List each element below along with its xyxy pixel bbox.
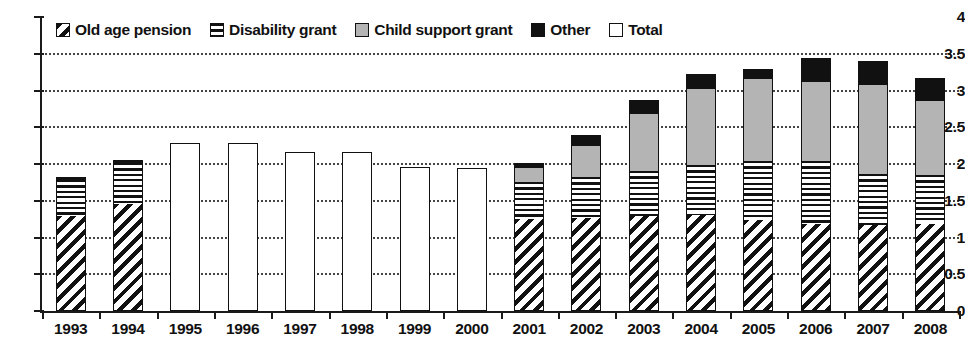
- x-axis-tick: [730, 311, 732, 319]
- bar-segment-child-support-grant: [858, 85, 888, 174]
- bar-1997: [285, 152, 315, 311]
- x-axis-tick: [672, 311, 674, 319]
- x-axis-label: 1997: [271, 321, 328, 337]
- bar-segment-old-age-pension: [686, 215, 716, 311]
- x-axis-tick: [959, 311, 961, 319]
- bar-segment-old-age-pension: [629, 216, 659, 311]
- x-axis-label: 1994: [99, 321, 156, 337]
- x-axis-tick: [329, 311, 331, 319]
- bar-segment-other: [113, 160, 143, 162]
- bar-1995: [170, 143, 200, 311]
- bar-segment-other: [629, 100, 659, 114]
- bar-segment-other: [743, 69, 773, 79]
- x-axis-tick: [844, 311, 846, 319]
- bar-2007: [858, 61, 888, 311]
- x-axis-label: 2005: [730, 321, 787, 337]
- plot-area: [0, 0, 965, 342]
- x-axis-label: 1996: [214, 321, 271, 337]
- bar-segment-total: [170, 143, 200, 311]
- bar-segment-other: [801, 58, 831, 82]
- x-axis-label: 1995: [157, 321, 214, 337]
- x-axis-tick: [157, 311, 159, 319]
- bar-2002: [571, 135, 601, 311]
- y-axis-label: 0.5: [931, 266, 965, 282]
- bar-segment-old-age-pension: [56, 216, 86, 311]
- bar-segment-child-support-grant: [743, 79, 773, 161]
- bar-segment-other: [686, 74, 716, 89]
- bar-segment-child-support-grant: [514, 168, 544, 183]
- bar-segment-other: [571, 135, 601, 145]
- bar-segment-old-age-pension: [801, 224, 831, 311]
- bar-2001: [514, 163, 544, 311]
- x-axis-line: [40, 311, 959, 313]
- x-axis-tick: [615, 311, 617, 319]
- x-axis-label: 2006: [787, 321, 844, 337]
- bar-segment-child-support-grant: [686, 89, 716, 165]
- x-axis-label: 2004: [672, 321, 729, 337]
- y-axis-label: 3: [931, 83, 965, 99]
- bar-segment-disability-grant: [514, 182, 544, 219]
- bar-segment-disability-grant: [801, 161, 831, 224]
- x-axis-label: 2001: [501, 321, 558, 337]
- bar-2004: [686, 74, 716, 311]
- bar-1994: [113, 160, 143, 311]
- x-axis-tick: [214, 311, 216, 319]
- bar-2006: [801, 58, 831, 311]
- y-axis-tick: [34, 200, 44, 202]
- bar-segment-old-age-pension: [743, 220, 773, 311]
- x-axis-label: 2008: [902, 321, 959, 337]
- y-axis-label: 4: [931, 9, 965, 25]
- x-axis-tick: [902, 311, 904, 319]
- bar-segment-disability-grant: [686, 165, 716, 215]
- bar-segment-disability-grant: [571, 177, 601, 217]
- bar-segment-other: [514, 163, 544, 168]
- x-axis-label: 2000: [443, 321, 500, 337]
- x-axis-label: 1998: [329, 321, 386, 337]
- bar-segment-disability-grant: [743, 161, 773, 220]
- x-axis-label: 1999: [386, 321, 443, 337]
- bar-segment-child-support-grant: [571, 146, 601, 178]
- bar-segment-total: [342, 152, 372, 311]
- y-axis-tick: [34, 90, 44, 92]
- y-axis-tick: [34, 237, 44, 239]
- bar-1998: [342, 152, 372, 311]
- y-axis-label: 2.5: [931, 119, 965, 135]
- bar-1996: [228, 143, 258, 311]
- y-axis-tick: [34, 163, 44, 165]
- y-axis-tick: [34, 126, 44, 128]
- bar-segment-disability-grant: [113, 163, 143, 205]
- bar-segment-total: [457, 168, 487, 311]
- bar-1999: [400, 167, 430, 311]
- bar-segment-disability-grant: [858, 174, 888, 225]
- bar-segment-total: [228, 143, 258, 311]
- x-axis-label: 1993: [42, 321, 99, 337]
- bar-2000: [457, 168, 487, 311]
- x-axis-tick: [787, 311, 789, 319]
- bar-segment-disability-grant: [56, 180, 86, 216]
- y-axis-label: 1.5: [931, 193, 965, 209]
- x-axis-tick: [501, 311, 503, 319]
- bar-segment-child-support-grant: [629, 114, 659, 171]
- bar-segment-old-age-pension: [113, 204, 143, 311]
- x-axis-tick: [558, 311, 560, 319]
- bar-segment-other: [858, 61, 888, 85]
- x-axis-tick: [42, 311, 44, 319]
- y-axis-label: 2: [931, 156, 965, 172]
- bar-segment-old-age-pension: [858, 225, 888, 311]
- bar-segment-other: [56, 177, 86, 180]
- y-axis-tick: [34, 16, 44, 18]
- bar-2005: [743, 69, 773, 311]
- bar-segment-old-age-pension: [514, 219, 544, 311]
- bar-segment-old-age-pension: [571, 218, 601, 311]
- y-axis-label: 1: [931, 230, 965, 246]
- bar-segment-disability-grant: [629, 171, 659, 217]
- x-axis-tick: [386, 311, 388, 319]
- y-axis-label: 3.5: [931, 46, 965, 62]
- x-axis-tick: [99, 311, 101, 319]
- bar-segment-total: [400, 167, 430, 311]
- bar-2003: [629, 100, 659, 311]
- x-axis-tick: [443, 311, 445, 319]
- x-axis-label: 2003: [615, 321, 672, 337]
- y-axis-tick: [34, 273, 44, 275]
- bar-segment-total: [285, 152, 315, 311]
